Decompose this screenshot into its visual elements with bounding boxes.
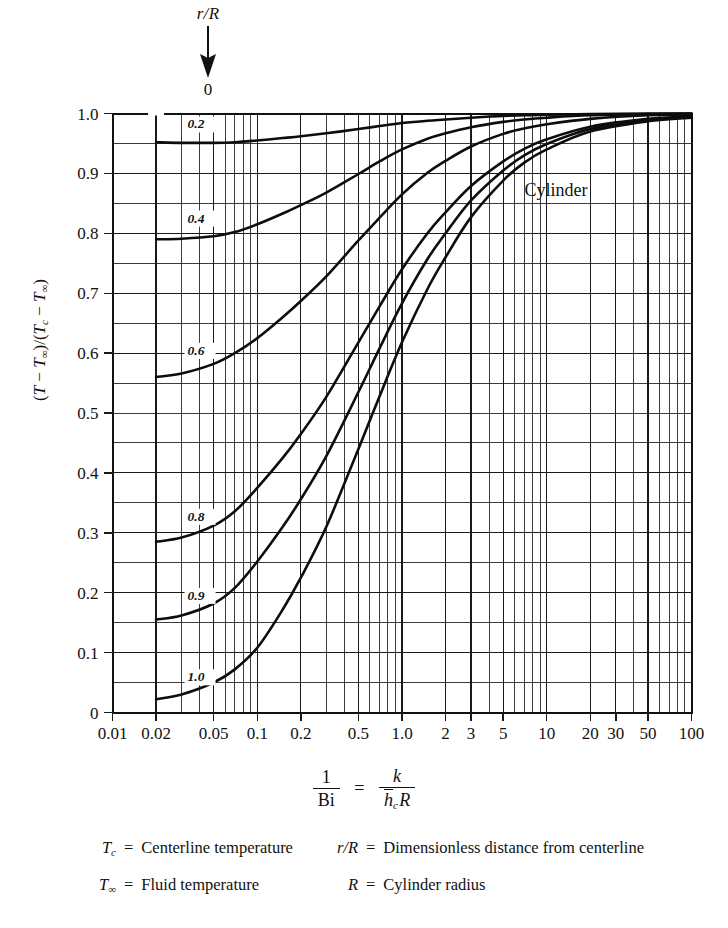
- k-over-hR-fraction: k hc R: [379, 766, 415, 811]
- legend-description: Centerline temperature: [141, 838, 293, 859]
- x-tick-label: 1.0: [391, 724, 412, 743]
- y-tick-label: 0: [90, 704, 99, 723]
- y-axis-tick-labels: 00.10.20.30.40.50.60.70.80.91.0: [77, 105, 99, 723]
- y-tick-label: 0.3: [77, 524, 98, 543]
- legend-row: T∞ = Fluid temperature R = Cylinder radi…: [0, 875, 728, 896]
- formula-lhs-numerator: 1: [313, 767, 340, 788]
- formula-rhs-denominator: hc R: [379, 787, 415, 811]
- x-tick-label: 30: [607, 724, 624, 743]
- h-bar-symbol: h: [384, 789, 393, 810]
- legend-symbol: r/R: [312, 838, 358, 858]
- legend-row: Tc = Centerline temperature r/R = Dimens…: [0, 838, 728, 859]
- y-tick-label: 0.5: [77, 404, 98, 423]
- legend-equals: =: [358, 875, 383, 895]
- x-tick-label: 20: [582, 724, 599, 743]
- cylinder-note-label: Cylinder: [525, 180, 588, 200]
- curve-label-0p6: 0.6: [188, 343, 205, 358]
- legend-description: Fluid temperature: [141, 875, 259, 896]
- x-tick-label: 0.01: [98, 724, 128, 743]
- x-tick-label: 0.5: [348, 724, 369, 743]
- legend-description: Cylinder radius: [383, 875, 485, 896]
- x-tick-label: 100: [679, 724, 705, 743]
- curve-label-0p4: 0.4: [188, 211, 205, 226]
- curve-label-1p0: 1.0: [188, 669, 205, 684]
- x-tick-label: 3: [467, 724, 476, 743]
- legend-symbol: T∞: [82, 875, 116, 895]
- legend-description: Dimensionless distance from centerline: [383, 838, 644, 859]
- legend-equals: =: [116, 838, 141, 858]
- nomenclature-legend: Tc = Centerline temperature r/R = Dimens…: [0, 838, 728, 911]
- legend-symbol-base: T: [102, 838, 111, 857]
- y-tick-label: 0.6: [77, 344, 98, 363]
- x-tick-label: 10: [538, 724, 555, 743]
- radius-symbol: R: [399, 790, 410, 810]
- legend-entry-tc: Tc = Centerline temperature: [0, 838, 300, 859]
- legend-entry-tinf: T∞ = Fluid temperature: [0, 875, 300, 896]
- y-tick-label: 0.7: [77, 284, 99, 303]
- legend-entry-radius: R = Cylinder radius: [300, 875, 700, 896]
- x-tick-label: 5: [499, 724, 508, 743]
- axis-ticks: [104, 114, 692, 721]
- y-tick-label: 0.4: [77, 464, 99, 483]
- legend-symbol: Tc: [82, 838, 116, 858]
- x-tick-label: 50: [639, 724, 656, 743]
- legend-symbol-base: T: [99, 875, 108, 894]
- y-tick-label: 0.2: [77, 584, 98, 603]
- x-tick-label: 0.02: [141, 724, 171, 743]
- x-axis-tick-labels: 0.010.020.050.10.20.51.023510203050100: [98, 724, 705, 743]
- curve-label-0p8: 0.8: [188, 509, 205, 524]
- curve-0p6: [156, 115, 691, 377]
- x-tick-label: 0.1: [247, 724, 268, 743]
- legend-symbol: R: [312, 875, 358, 895]
- arrow-entry-gap: [148, 111, 164, 116]
- y-tick-label: 1.0: [77, 105, 98, 124]
- chart-page: r/R 0 (T − T∞)/(Tc − T∞) 0.20.40.60.80.9…: [0, 0, 728, 928]
- x-tick-label: 0.05: [199, 724, 229, 743]
- chart-plot-area: 0.20.40.60.80.91.0 0.010.020.050.10.20.5…: [0, 0, 728, 760]
- h-subscript-c: c: [393, 799, 398, 811]
- formula-lhs-denominator: Bi: [313, 788, 340, 810]
- curve-0p8: [156, 117, 691, 542]
- x-tick-label: 2: [441, 724, 450, 743]
- x-tick-label: 0.2: [290, 724, 311, 743]
- legend-entry-r-over-R: r/R = Dimensionless distance from center…: [300, 838, 700, 859]
- curve-1p0: [156, 118, 691, 700]
- curve-label-0p2: 0.2: [188, 116, 205, 131]
- y-tick-label: 0.9: [77, 164, 98, 183]
- legend-equals: =: [116, 875, 141, 895]
- legend-equals: =: [358, 838, 383, 858]
- data-curves: [156, 113, 691, 699]
- heisler-position-correction-chart: 0.20.40.60.80.91.0 0.010.020.050.10.20.5…: [0, 0, 728, 760]
- formula-equals: =: [350, 778, 368, 799]
- one-over-bi-fraction: 1 Bi: [313, 767, 340, 810]
- y-tick-label: 0.1: [77, 644, 98, 663]
- legend-symbol-subscript: ∞: [108, 883, 116, 895]
- curve-label-0p9: 0.9: [188, 588, 205, 603]
- y-tick-label: 0.8: [77, 224, 98, 243]
- formula-rhs-numerator: k: [379, 766, 415, 787]
- curve-0p9: [156, 117, 691, 620]
- x-axis-formula: 1 Bi = k hc R: [0, 766, 728, 811]
